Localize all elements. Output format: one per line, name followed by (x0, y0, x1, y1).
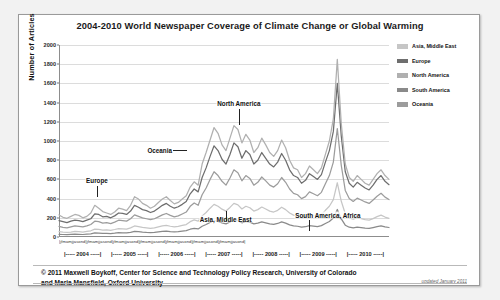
chart-title: 2004-2010 World Newspaper Coverage of Cl… (19, 21, 481, 31)
annotation-leader-line (239, 109, 240, 125)
legend-label: South America (412, 87, 450, 93)
annotation-leader-line (173, 150, 187, 151)
y-axis-tick-label: 1600 (44, 80, 56, 86)
series-lines (59, 45, 389, 237)
x-axis-year-labels: |----- 2004 -----||----- 2005 -----||---… (59, 251, 389, 262)
legend-item: Asia, Middle East (397, 39, 477, 54)
y-axis-tick-label: 1800 (44, 61, 56, 67)
legend-label: Oceania (412, 101, 433, 107)
x-axis-year-label: |----- 2010 -----| (342, 251, 389, 262)
legend-item: Oceania (397, 97, 477, 112)
x-axis-year-label: |----- 2009 -----| (295, 251, 342, 262)
annotation-leader-line (226, 211, 227, 221)
x-axis-year-label: |----- 2007 -----| (200, 251, 247, 262)
y-axis-label: Number of Articles (27, 0, 36, 107)
legend-swatch (397, 102, 408, 107)
series-annotation: South America, Africa (294, 211, 361, 218)
bottom-rule (33, 283, 467, 284)
y-axis-tick-label: 200 (47, 215, 56, 221)
y-axis-tick-label: 600 (47, 176, 56, 182)
chart-legend: Asia, Middle EastEuropeNorth AmericaSout… (397, 39, 477, 112)
credit-text: © 2011 Maxwell Boykoff, Center for Scien… (41, 268, 391, 287)
x-axis-year-label: |----- 2004 -----| (59, 251, 106, 262)
y-axis-tick-label: 400 (47, 196, 56, 202)
series-line (59, 183, 389, 233)
annotation-leader-line (97, 186, 98, 197)
screenshot-root: 2004-2010 World Newspaper Coverage of Cl… (0, 0, 500, 300)
series-annotation: Europe (85, 177, 109, 184)
credit-line-1: © 2011 Maxwell Boykoff, Center for Scien… (41, 268, 391, 278)
series-annotation: Oceania (146, 146, 173, 153)
legend-item: Europe (397, 54, 477, 69)
legend-item: South America (397, 83, 477, 98)
y-axis-tick-label: 1000 (44, 138, 56, 144)
legend-item: North America (397, 68, 477, 83)
y-axis-tick-label: 1200 (44, 119, 56, 125)
x-axis-year-label: |----- 2006 -----| (153, 251, 200, 262)
legend-swatch (397, 44, 408, 49)
legend-label: North America (412, 72, 449, 78)
series-annotation: North America (216, 99, 261, 106)
legend-swatch (397, 59, 408, 64)
plot-area: Number of Articles 200018001600140012001… (59, 45, 389, 237)
footer-divider (33, 265, 467, 266)
annotation-leader-line (309, 220, 310, 231)
y-axis-tick-label: 800 (47, 157, 56, 163)
y-axis-tick-label: 1400 (44, 100, 56, 106)
legend-swatch (397, 88, 408, 93)
legend-swatch (397, 73, 408, 78)
chart-card: 2004-2010 World Newspaper Coverage of Cl… (18, 14, 480, 286)
x-axis-month-ticks: |jfmamjjasond|jfmamjjasond|jfmamjjasond|… (59, 239, 389, 248)
legend-label: Europe (412, 58, 431, 64)
x-axis-year-label: |----- 2005 -----| (106, 251, 153, 262)
y-axis-tick-label: 2000 (44, 42, 56, 48)
x-axis-year-label: |----- 2008 -----| (248, 251, 295, 262)
legend-label: Asia, Middle East (412, 43, 456, 49)
